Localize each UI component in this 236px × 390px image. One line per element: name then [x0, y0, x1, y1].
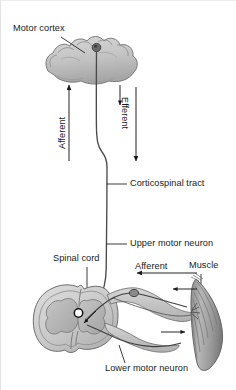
label-lower-motor-neuron: Lower motor neuron: [105, 364, 188, 374]
label-muscle: Muscle: [189, 261, 218, 271]
label-afferent-upper: Afferent: [57, 117, 67, 149]
neuroanatomy-figure: Motor cortex Afferent Efferent Corticosp…: [0, 0, 236, 390]
label-corticospinal-tract: Corticospinal tract: [130, 179, 204, 189]
label-efferent-upper: Efferent: [120, 97, 130, 129]
gray-matter-left: [46, 299, 79, 334]
skeletal-muscle: [191, 273, 223, 370]
label-motor-cortex: Motor cortex: [13, 24, 65, 34]
label-afferent-lower: Afferent: [135, 262, 167, 272]
spinal-cord-cross-section: [33, 285, 118, 353]
dorsal-root-ganglion: [129, 289, 138, 296]
gray-matter-right: [78, 300, 105, 334]
diagram-artwork: [1, 1, 236, 390]
upper-motor-neuron-axon: [85, 52, 107, 316]
central-canal: [74, 309, 82, 317]
motor-cortex-structure: [46, 37, 137, 85]
label-upper-motor-neuron: Upper motor neuron: [130, 239, 213, 249]
lower-motor-neuron-leader: [119, 345, 125, 363]
label-spinal-cord: Spinal cord: [53, 254, 100, 264]
